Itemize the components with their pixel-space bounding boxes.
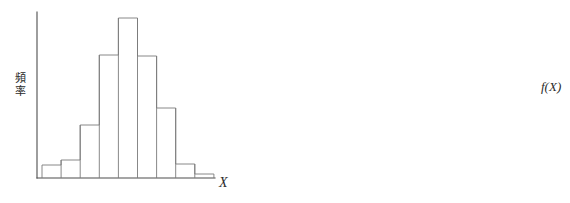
- right-chart-panel: f(X) X: [285, 0, 570, 203]
- histogram-outline: [42, 18, 214, 178]
- left-x-axis-label: X: [219, 176, 228, 190]
- left-y-axis-label: 頻 率: [14, 72, 26, 98]
- left-axes: [37, 12, 215, 178]
- left-bars-group: [42, 18, 214, 178]
- figure-root: 頻 率 X f(X) X: [0, 0, 570, 203]
- right-y-axis-label: f(X): [541, 80, 561, 93]
- left-histogram-svg: [0, 0, 285, 203]
- right-histogram-svg: [285, 0, 570, 203]
- left-chart-panel: 頻 率 X: [0, 0, 285, 203]
